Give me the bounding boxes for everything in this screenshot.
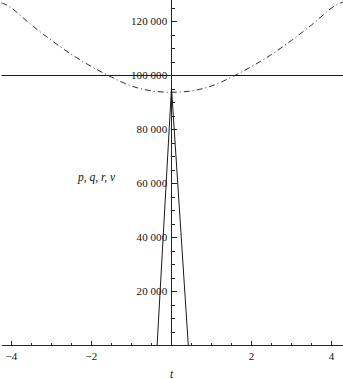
y-tick-label: 40 000 bbox=[137, 232, 168, 243]
y-tick-label: 100 000 bbox=[131, 70, 168, 81]
x-tick-label: 4 bbox=[312, 351, 343, 362]
y-tick-label: 120 000 bbox=[131, 16, 168, 27]
x-tick-label: −4 bbox=[0, 351, 32, 362]
series-parabola bbox=[2, 2, 343, 92]
x-tick-label: 2 bbox=[232, 351, 272, 362]
y-tick-label: 60 000 bbox=[137, 178, 168, 189]
y-tick-label: 20 000 bbox=[137, 286, 168, 297]
axes-group bbox=[2, 0, 343, 346]
x-tick-label: −2 bbox=[72, 351, 112, 362]
plot-canvas bbox=[0, 0, 343, 379]
series-group bbox=[2, 2, 343, 346]
y-axis-title: p, q, r, v bbox=[78, 171, 115, 183]
x-axis-title: t bbox=[162, 368, 182, 379]
plot-figure: 20 00040 00060 00080 000100 000120 000 −… bbox=[0, 0, 343, 379]
y-tick-label: 80 000 bbox=[137, 124, 168, 135]
